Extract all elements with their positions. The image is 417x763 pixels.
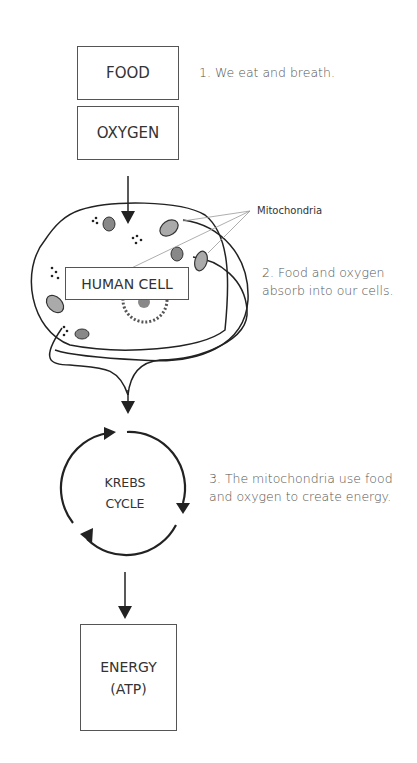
food-box: FOOD (77, 46, 179, 100)
arrow-down-icon (118, 572, 132, 619)
oxygen-label: OXYGEN (97, 124, 160, 142)
human-cell-box: HUMAN CELL (65, 267, 189, 300)
step1-note: 1. We eat and breath. (199, 64, 335, 82)
human-cell-label: HUMAN CELL (81, 276, 173, 292)
diagram-canvas (0, 0, 417, 763)
arrow-down-icon (121, 176, 135, 224)
mitochondria-label: Mitochondria (257, 202, 322, 220)
step2-note: 2. Food and oxygen absorb into our cells… (262, 264, 393, 300)
step3-note: 3. The mitochondria use food and oxygen … (209, 470, 393, 506)
oxygen-box: OXYGEN (77, 106, 179, 160)
energy-box: ENERGY (ATP) (80, 624, 177, 731)
arrow-down-icon (121, 390, 135, 414)
food-label: FOOD (106, 64, 150, 82)
krebs-cycle-label: KREBS CYCLE (90, 472, 160, 514)
